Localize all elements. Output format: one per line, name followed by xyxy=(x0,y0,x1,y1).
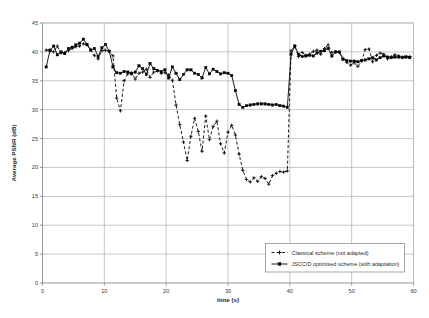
marker-square xyxy=(179,78,182,81)
marker-cross xyxy=(371,60,374,63)
marker-square xyxy=(186,69,189,72)
marker-square xyxy=(212,68,215,71)
marker-cross xyxy=(185,159,188,162)
marker-square xyxy=(223,71,226,74)
marker-square xyxy=(334,51,337,54)
marker-square xyxy=(312,55,315,58)
marker-square xyxy=(45,66,48,69)
marker-square xyxy=(331,55,334,58)
marker-square xyxy=(108,50,111,53)
legend-label-1: JSCC/D optimised scheme (with adaptation… xyxy=(292,261,400,267)
legend-box xyxy=(266,244,405,273)
marker-square xyxy=(167,77,170,80)
marker-square xyxy=(245,104,248,107)
marker-cross xyxy=(122,79,125,82)
marker-square xyxy=(82,38,85,41)
marker-square xyxy=(386,56,389,59)
marker-cross xyxy=(148,76,151,79)
y-tick-label-30: 30 xyxy=(32,107,38,113)
marker-square xyxy=(256,103,259,106)
marker-square xyxy=(67,47,70,50)
y-axis-title: Average PSNR (dB) xyxy=(10,124,17,181)
marker-square xyxy=(227,72,230,75)
marker-square xyxy=(130,73,133,76)
marker-square xyxy=(371,56,374,59)
marker-square xyxy=(78,42,81,45)
marker-square xyxy=(193,72,196,75)
marker-cross xyxy=(93,54,96,57)
marker-square xyxy=(297,53,300,56)
marker-square xyxy=(204,66,207,69)
marker-square xyxy=(345,59,348,62)
marker-square xyxy=(238,103,241,106)
marker-square xyxy=(279,104,282,107)
marker-square xyxy=(145,73,148,76)
marker-cross xyxy=(271,174,274,177)
marker-square xyxy=(290,53,293,56)
marker-square xyxy=(101,47,104,50)
marker-square xyxy=(394,56,397,59)
x-tick-label-30: 30 xyxy=(225,288,231,294)
marker-square xyxy=(397,56,400,59)
marker-cross xyxy=(278,170,281,173)
marker-cross xyxy=(171,79,174,82)
y-tick-label-40: 40 xyxy=(32,49,38,55)
marker-square xyxy=(253,103,256,106)
marker-square xyxy=(409,56,412,59)
marker-cross xyxy=(189,135,192,138)
marker-cross xyxy=(286,169,289,172)
marker-square xyxy=(264,103,267,106)
marker-square xyxy=(75,44,78,47)
marker-cross xyxy=(211,125,214,128)
marker-cross xyxy=(45,48,48,51)
marker-square xyxy=(153,67,156,70)
marker-square xyxy=(249,104,252,107)
marker-cross xyxy=(226,131,229,134)
marker-square xyxy=(52,45,55,48)
y-tick-label-0: 0 xyxy=(35,280,38,286)
chart-figure: 0510152025303540450102030405060Average P… xyxy=(0,0,429,318)
marker-cross xyxy=(200,150,203,153)
marker-square xyxy=(286,106,289,109)
marker-square xyxy=(160,70,163,73)
marker-square xyxy=(208,73,211,76)
x-tick-label-0: 0 xyxy=(41,288,44,294)
marker-square xyxy=(308,54,311,57)
marker-square xyxy=(49,49,52,52)
marker-square xyxy=(327,47,330,50)
marker-cross xyxy=(315,48,318,51)
marker-square xyxy=(268,103,271,106)
marker-square xyxy=(64,52,66,55)
marker-square xyxy=(271,104,274,107)
marker-square xyxy=(123,70,126,73)
marker-square xyxy=(112,66,115,69)
marker-square xyxy=(234,89,237,92)
psnr-line-chart: 0510152025303540450102030405060Average P… xyxy=(0,0,429,318)
marker-cross xyxy=(182,140,185,143)
marker-square xyxy=(219,73,222,76)
marker-square xyxy=(316,52,319,55)
marker-cross xyxy=(241,169,244,172)
marker-square xyxy=(230,74,233,77)
marker-square xyxy=(56,54,59,57)
marker-square xyxy=(71,46,74,49)
x-tick-label-50: 50 xyxy=(349,288,355,294)
marker-cross xyxy=(137,72,140,75)
marker-cross xyxy=(115,96,118,99)
legend-label-0: Classical scheme (not adapted) xyxy=(292,250,369,256)
marker-square xyxy=(197,73,200,76)
y-tick-label-35: 35 xyxy=(32,78,38,84)
marker-square xyxy=(104,43,107,46)
marker-square xyxy=(149,62,152,65)
marker-square xyxy=(93,47,96,50)
marker-square xyxy=(364,59,367,62)
marker-square xyxy=(134,71,137,74)
marker-square xyxy=(182,73,185,76)
marker-square xyxy=(141,67,144,70)
marker-cross xyxy=(367,47,370,50)
y-tick-label-25: 25 xyxy=(32,136,38,142)
marker-square xyxy=(156,69,159,72)
y-tick-label-10: 10 xyxy=(32,222,38,228)
y-tick-label-15: 15 xyxy=(32,193,38,199)
marker-square xyxy=(383,55,386,58)
